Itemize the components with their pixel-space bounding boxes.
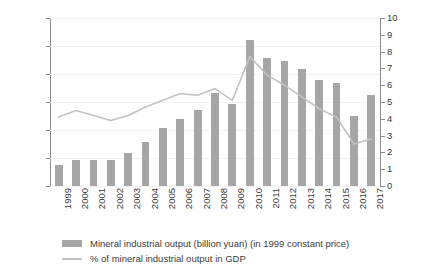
right-axis-tick	[381, 35, 385, 36]
right-axis-tick-label: 4	[387, 114, 392, 124]
legend-line-swatch-icon	[62, 255, 82, 262]
x-axis-tick-label: 2004	[150, 188, 160, 209]
x-axis-tick-label: 2001	[97, 188, 107, 209]
plot-area	[50, 18, 380, 186]
x-axis-tick-label: 2014	[323, 188, 333, 209]
x-axis-tick-label: 2005	[167, 188, 177, 209]
x-axis-tick-label: 2011	[271, 188, 281, 208]
x-axis-tick-label: 2000	[80, 188, 90, 209]
right-axis-tick	[381, 52, 385, 53]
legend-label-mineral-industrial-output: Mineral industrial output (billion yuan)…	[90, 238, 349, 249]
x-axis-tick-label: 2013	[306, 188, 316, 209]
right-axis-tick	[381, 136, 385, 137]
legend-item-mineral-industrial-output: Mineral industrial output (billion yuan)…	[62, 236, 392, 251]
right-axis-tick	[381, 169, 385, 170]
right-axis-tick	[381, 68, 385, 69]
right-axis-tick	[381, 85, 385, 86]
x-axis-tick-label: 1999	[63, 188, 73, 209]
right-axis-tick-label: 10	[387, 13, 398, 23]
x-axis-tick-label: 2007	[202, 188, 212, 209]
x-axis-labels: 1999200020012002200320042005200620072008…	[50, 188, 380, 236]
right-axis-tick-label: 2	[387, 147, 392, 157]
x-axis-tick-label: 2016	[358, 188, 368, 209]
chart-legend: Mineral industrial output (billion yuan)…	[62, 236, 392, 266]
x-axis-tick-label: 2017	[375, 188, 385, 209]
right-axis-tick	[381, 102, 385, 103]
legend-bar-swatch-icon	[62, 240, 82, 247]
x-axis-tick-label: 2002	[115, 188, 125, 209]
x-axis-tick-label: 2008	[219, 188, 229, 209]
chart-container: 05001,0001,5002,0002,5003,000 0123456789…	[0, 0, 430, 269]
right-axis-tick	[381, 18, 385, 19]
x-axis-tick-label: 2003	[132, 188, 142, 209]
gridline	[50, 186, 380, 187]
x-axis-tick-label: 2009	[236, 188, 246, 209]
right-axis-tick	[381, 186, 385, 187]
right-axis-tick	[381, 152, 385, 153]
right-axis-tick-label: 8	[387, 47, 392, 57]
x-axis-tick-label: 2012	[288, 188, 298, 209]
right-axis-tick-label: 3	[387, 131, 392, 141]
right-axis-tick-label: 1	[387, 164, 392, 174]
x-axis-tick-label: 2015	[341, 188, 351, 209]
line-series-percent-of-gdp	[50, 18, 380, 186]
legend-item-percent-of-gdp: % of mineral industrial output in GDP	[62, 251, 392, 266]
x-axis-tick-label: 2006	[184, 188, 194, 209]
right-axis-tick-label: 0	[387, 181, 392, 191]
x-axis-tick-label: 2010	[254, 188, 264, 209]
legend-label-percent-of-gdp: % of mineral industrial output in GDP	[90, 253, 246, 264]
right-axis-tick-label: 7	[387, 63, 392, 73]
right-axis-tick-label: 6	[387, 80, 392, 90]
right-axis-tick-label: 5	[387, 97, 392, 107]
right-axis-tick-label: 9	[387, 30, 392, 40]
right-axis-tick	[381, 119, 385, 120]
